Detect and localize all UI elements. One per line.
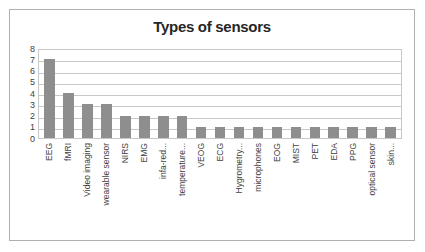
bar-slot xyxy=(211,50,230,138)
x-axis-label: ECG xyxy=(215,143,224,161)
bar[interactable] xyxy=(63,93,74,138)
x-axis-label: infa-red... xyxy=(158,143,167,179)
x-label-slot: microphones xyxy=(249,141,268,237)
x-axis-label: PPG xyxy=(349,143,358,161)
bar-slot xyxy=(135,50,154,138)
bar-slot xyxy=(116,50,135,138)
x-axis-label: VEOG xyxy=(196,143,205,168)
bar[interactable] xyxy=(253,127,264,138)
y-axis-tick-0: 0 xyxy=(19,135,35,144)
bar[interactable] xyxy=(120,116,131,139)
bar[interactable] xyxy=(234,127,245,138)
bar[interactable] xyxy=(385,127,396,138)
x-label-slot: PPG xyxy=(344,141,363,237)
bar[interactable] xyxy=(291,127,302,138)
x-label-slot: skin... xyxy=(382,141,401,237)
bar-slot xyxy=(173,50,192,138)
x-label-slot: ECG xyxy=(210,141,229,237)
bar[interactable] xyxy=(82,104,93,138)
y-axis-tick-8: 8 xyxy=(19,45,35,54)
y-axis-tick-6: 6 xyxy=(19,67,35,76)
bar[interactable] xyxy=(196,127,207,138)
x-label-slot: EDA xyxy=(325,141,344,237)
plot-area xyxy=(38,49,402,139)
x-label-slot: VEOG xyxy=(191,141,210,237)
x-axis-label: Hygrometry... xyxy=(234,143,243,193)
y-axis-tick-labels: 876543210 xyxy=(19,43,35,139)
x-axis-label: temperature... xyxy=(177,143,186,196)
bar[interactable] xyxy=(158,116,169,139)
x-label-slot: NIRS xyxy=(115,141,134,237)
bar[interactable] xyxy=(215,127,226,138)
bar[interactable] xyxy=(272,127,283,138)
x-axis-category-labels: EEGfMRIVideo imagingwearable sensorNIRSE… xyxy=(38,141,402,237)
bar[interactable] xyxy=(328,127,339,138)
x-label-slot: Video imaging xyxy=(77,141,96,237)
bar[interactable] xyxy=(177,116,188,139)
x-axis-label: EDA xyxy=(330,143,339,160)
x-label-slot: EEG xyxy=(39,141,58,237)
bar-slot xyxy=(40,50,59,138)
bar[interactable] xyxy=(347,127,358,138)
chart-title: Types of sensors xyxy=(10,18,414,35)
bar-slot xyxy=(230,50,249,138)
x-axis-label: microphones xyxy=(254,143,263,192)
bar[interactable] xyxy=(366,127,377,138)
bar-slot xyxy=(154,50,173,138)
x-label-slot: optical sensor xyxy=(363,141,382,237)
x-axis-label: EOG xyxy=(273,143,282,162)
bar[interactable] xyxy=(310,127,321,138)
y-axis-tick-5: 5 xyxy=(19,78,35,87)
x-label-slot: PET xyxy=(306,141,325,237)
x-axis-label: Video imaging xyxy=(82,143,91,197)
x-label-slot: MIST xyxy=(287,141,306,237)
bar[interactable] xyxy=(139,116,150,139)
x-label-slot: EOG xyxy=(268,141,287,237)
bar-slot xyxy=(286,50,305,138)
x-label-slot: EMG xyxy=(134,141,153,237)
bar-slot xyxy=(381,50,400,138)
y-axis-tick-2: 2 xyxy=(19,112,35,121)
plot-wrapper: 876543210 EEGfMRIVideo imagingwearable s… xyxy=(10,43,416,239)
x-axis-label: skin... xyxy=(387,143,396,165)
bar[interactable] xyxy=(44,59,55,138)
y-axis-tick-7: 7 xyxy=(19,56,35,65)
y-axis-tick-1: 1 xyxy=(19,123,35,132)
bar-slot xyxy=(192,50,211,138)
x-label-slot: fMRI xyxy=(58,141,77,237)
chart-frame: Types of sensors 876543210 EEGfMRIVideo … xyxy=(9,9,415,241)
bar-slot xyxy=(343,50,362,138)
x-label-slot: wearable sensor xyxy=(96,141,115,237)
bar-slot xyxy=(78,50,97,138)
x-axis-label: PET xyxy=(311,143,320,160)
bar-slot xyxy=(305,50,324,138)
bars-layer xyxy=(39,50,401,138)
x-label-slot: Hygrometry... xyxy=(229,141,248,237)
bar-slot xyxy=(248,50,267,138)
x-axis-label: EMG xyxy=(139,143,148,162)
bar-slot xyxy=(59,50,78,138)
bar-slot xyxy=(324,50,343,138)
bar-slot xyxy=(97,50,116,138)
x-axis-label: fMRI xyxy=(63,143,72,161)
x-axis-label: EEG xyxy=(44,143,53,161)
x-axis-label: MIST xyxy=(292,143,301,163)
y-axis-tick-3: 3 xyxy=(19,101,35,110)
x-label-slot: infa-red... xyxy=(153,141,172,237)
x-axis-label: wearable sensor xyxy=(101,143,110,205)
x-axis-label: optical sensor xyxy=(368,143,377,195)
bar[interactable] xyxy=(101,104,112,138)
x-label-slot: temperature... xyxy=(172,141,191,237)
bar-slot xyxy=(362,50,381,138)
x-axis-label: NIRS xyxy=(120,143,129,163)
y-axis-tick-4: 4 xyxy=(19,90,35,99)
bar-slot xyxy=(267,50,286,138)
